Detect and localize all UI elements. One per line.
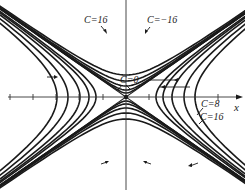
label-c8: C=8 — [201, 98, 219, 109]
arrow-right-icon — [105, 161, 109, 164]
arrow-left-icon — [188, 163, 192, 167]
label-c16-top-left: C=16 — [84, 14, 107, 25]
label-c0: C=0 — [120, 74, 138, 85]
x-axis-label: x — [233, 101, 239, 113]
arrow-left-icon — [143, 161, 147, 164]
origin-point — [124, 95, 128, 99]
label-c16-right: C=16 — [200, 111, 223, 122]
x-axis-arrow-icon — [236, 95, 243, 100]
arrow-left-icon — [161, 85, 165, 89]
arrow-left-icon — [174, 78, 178, 82]
level-curve-diagram: x C=16 C=−16 C=0 C=8 C=16 — [0, 0, 245, 190]
level-curve — [0, 0, 96, 190]
level-curve — [163, 0, 245, 190]
arrow-right-icon — [54, 75, 58, 79]
label-c-neg16-top-right: C=−16 — [147, 14, 177, 25]
